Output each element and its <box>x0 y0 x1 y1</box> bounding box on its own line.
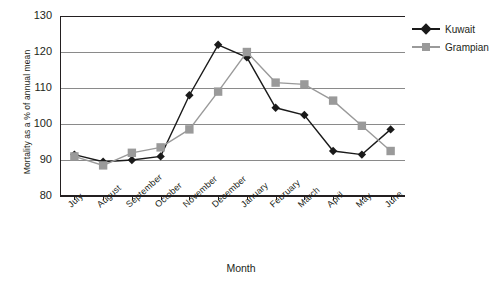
grampian-square-icon <box>412 41 440 53</box>
data-point-grampian-april[interactable] <box>329 96 337 104</box>
series-line-grampian <box>74 52 390 165</box>
y-tick-130: 130 <box>22 10 52 21</box>
kuwait-diamond-icon <box>412 23 440 35</box>
data-point-kuwait-september[interactable] <box>128 156 136 164</box>
data-point-grampian-may[interactable] <box>358 122 366 130</box>
data-point-grampian-march[interactable] <box>300 80 308 88</box>
data-point-grampian-june[interactable] <box>386 147 394 155</box>
data-point-kuwait-november[interactable] <box>185 91 193 99</box>
legend-item-kuwait[interactable]: Kuwait <box>412 20 489 38</box>
y-tick-120: 120 <box>22 46 52 57</box>
data-point-grampian-january[interactable] <box>243 48 251 56</box>
data-point-grampian-february[interactable] <box>271 78 279 86</box>
data-point-grampian-july[interactable] <box>70 152 78 160</box>
data-point-grampian-december[interactable] <box>214 87 222 95</box>
chart-legend: Kuwait Grampian <box>412 20 489 56</box>
plot-area <box>60 16 405 196</box>
data-point-grampian-august[interactable] <box>99 161 107 169</box>
data-point-kuwait-december[interactable] <box>214 41 222 49</box>
data-series-layer <box>60 16 405 196</box>
data-point-kuwait-october[interactable] <box>156 152 164 160</box>
legend-label-kuwait: Kuwait <box>445 24 475 35</box>
legend-label-grampian: Grampian <box>445 42 489 53</box>
legend-item-grampian[interactable]: Grampian <box>412 38 489 56</box>
y-tick-110: 110 <box>22 82 52 93</box>
data-point-grampian-november[interactable] <box>185 125 193 133</box>
data-point-grampian-october[interactable] <box>156 143 164 151</box>
x-axis-title: Month <box>0 262 482 274</box>
y-tick-80: 80 <box>22 190 52 201</box>
y-tick-100: 100 <box>22 118 52 129</box>
y-tick-90: 90 <box>22 154 52 165</box>
data-point-grampian-september[interactable] <box>128 149 136 157</box>
data-point-kuwait-february[interactable] <box>271 104 279 112</box>
series-line-kuwait <box>74 45 390 162</box>
